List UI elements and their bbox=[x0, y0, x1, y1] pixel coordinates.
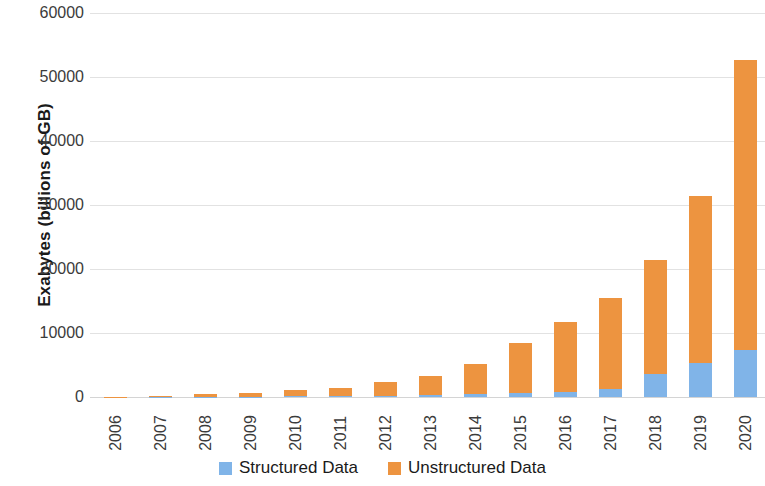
stacked-bar-chart: Exabytes (billions of GB) 01000020000300… bbox=[0, 0, 765, 486]
bar-2013[interactable] bbox=[419, 376, 442, 397]
bar-2011[interactable] bbox=[329, 388, 352, 397]
bar-segment-structured-2012[interactable] bbox=[374, 396, 397, 397]
legend-label: Structured Data bbox=[239, 458, 358, 478]
bar-segment-unstructured-2015[interactable] bbox=[509, 343, 532, 394]
y-tick-label-50000: 50000 bbox=[0, 69, 84, 85]
bar-segment-structured-2019[interactable] bbox=[689, 363, 712, 397]
bar-segment-structured-2018[interactable] bbox=[644, 374, 667, 397]
bar-2015[interactable] bbox=[509, 343, 532, 397]
y-tick-label-10000: 10000 bbox=[0, 325, 84, 341]
y-tick-label-20000: 20000 bbox=[0, 261, 84, 277]
legend-item-unstructured[interactable]: Unstructured Data bbox=[388, 458, 546, 478]
bar-2012[interactable] bbox=[374, 382, 397, 397]
bar-segment-unstructured-2018[interactable] bbox=[644, 260, 667, 374]
bar-2019[interactable] bbox=[689, 196, 712, 397]
legend-swatch-icon-structured bbox=[219, 462, 232, 475]
bar-segment-structured-2010[interactable] bbox=[284, 396, 307, 397]
y-tick-label-60000: 60000 bbox=[0, 5, 84, 21]
x-axis-tick-labels: 2006200720082009201020112012201320142015… bbox=[90, 400, 765, 456]
bar-segment-unstructured-2017[interactable] bbox=[599, 298, 622, 389]
bars-layer bbox=[90, 0, 765, 398]
bar-segment-structured-2020[interactable] bbox=[734, 350, 757, 397]
bar-2017[interactable] bbox=[599, 298, 622, 397]
bar-2007[interactable] bbox=[149, 396, 172, 397]
bar-segment-unstructured-2014[interactable] bbox=[464, 364, 487, 394]
y-tick-label-30000: 30000 bbox=[0, 197, 84, 213]
bar-2016[interactable] bbox=[554, 322, 577, 397]
bar-segment-unstructured-2020[interactable] bbox=[734, 60, 757, 349]
bar-2020[interactable] bbox=[734, 60, 757, 397]
bar-segment-structured-2011[interactable] bbox=[329, 396, 352, 397]
plot-area bbox=[90, 0, 765, 398]
y-axis-tick-labels: 0100002000030000400005000060000 bbox=[0, 0, 84, 410]
chart-legend: Structured DataUnstructured Data bbox=[0, 458, 765, 478]
bar-segment-structured-2013[interactable] bbox=[419, 395, 442, 397]
bar-segment-unstructured-2011[interactable] bbox=[329, 388, 352, 396]
bar-segment-unstructured-2016[interactable] bbox=[554, 322, 577, 392]
bar-segment-structured-2014[interactable] bbox=[464, 394, 487, 397]
bar-segment-structured-2017[interactable] bbox=[599, 389, 622, 397]
bar-2010[interactable] bbox=[284, 390, 307, 397]
bar-segment-unstructured-2012[interactable] bbox=[374, 382, 397, 395]
bar-segment-structured-2009[interactable] bbox=[239, 397, 262, 398]
legend-swatch-icon-unstructured bbox=[388, 462, 401, 475]
legend-label: Unstructured Data bbox=[408, 458, 546, 478]
bar-2014[interactable] bbox=[464, 364, 487, 397]
bar-segment-structured-2015[interactable] bbox=[509, 393, 532, 397]
bar-segment-unstructured-2019[interactable] bbox=[689, 196, 712, 363]
bar-2008[interactable] bbox=[194, 394, 217, 397]
bar-2009[interactable] bbox=[239, 393, 262, 397]
bar-2018[interactable] bbox=[644, 260, 667, 397]
bar-segment-unstructured-2013[interactable] bbox=[419, 376, 442, 395]
y-tick-label-40000: 40000 bbox=[0, 133, 84, 149]
bar-segment-structured-2016[interactable] bbox=[554, 392, 577, 397]
y-tick-label-0: 0 bbox=[0, 389, 84, 405]
legend-item-structured[interactable]: Structured Data bbox=[219, 458, 358, 478]
